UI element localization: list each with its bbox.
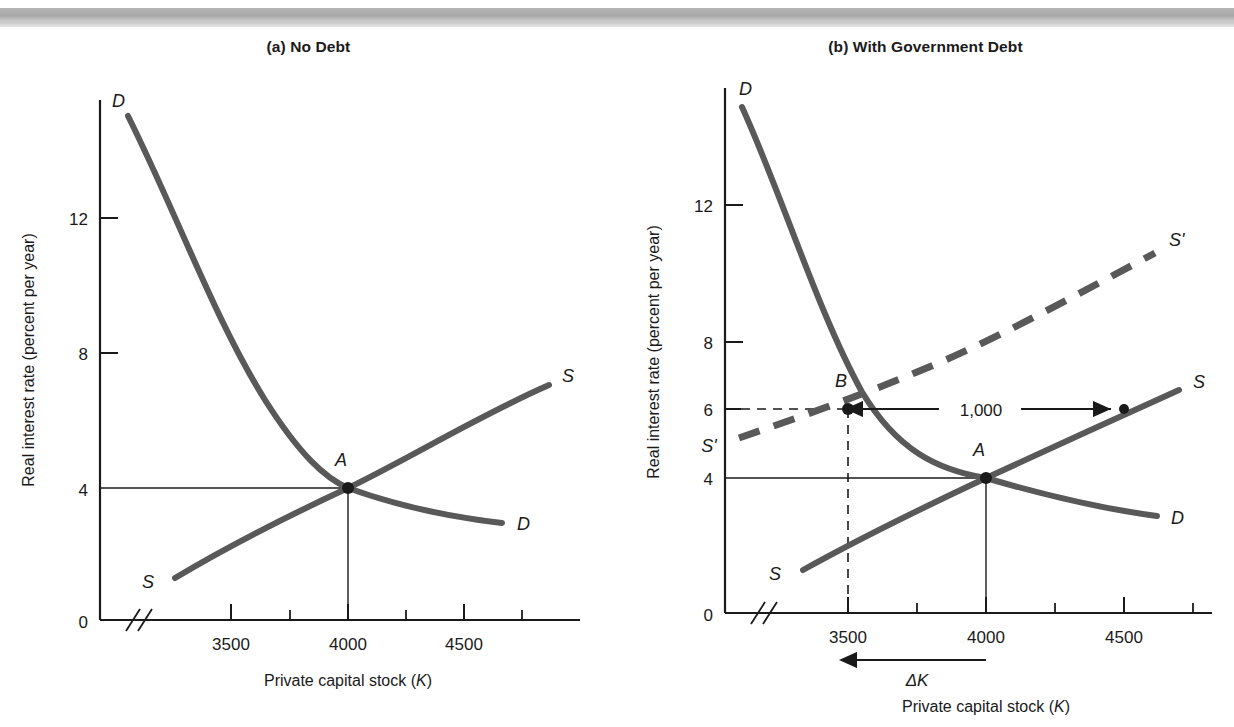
shifted-supply-label-end: S'	[1169, 230, 1185, 250]
x-ticks	[231, 604, 522, 620]
crowding-out-label: 1,000	[960, 401, 1003, 420]
shifted-supply-label-start: S'	[701, 436, 717, 456]
y-axis-title: Real interest rate (percent per year)	[20, 233, 37, 486]
y-tick-label-4: 4	[79, 481, 88, 500]
demand-curve-label-end: D	[517, 514, 530, 534]
supply-curve-label-end: S	[1193, 372, 1205, 392]
panel-a-chart: 12 8 4 0 3500 4000 4500 A D D S S	[0, 0, 617, 727]
y-tick-label-8: 8	[704, 334, 713, 353]
y-tick-label-0: 0	[704, 606, 713, 625]
point-b-label: B	[835, 371, 847, 391]
point-b-marker	[842, 403, 854, 415]
point-a-marker	[342, 482, 354, 494]
x-axis-title: Private capital stock (K)	[264, 672, 432, 689]
demand-curve	[128, 116, 502, 523]
x-axis-title-close: )	[1065, 698, 1070, 715]
x-axis-title-plain: Private capital stock (	[902, 698, 1055, 715]
y-tick-label-4: 4	[704, 470, 713, 489]
supply-curve	[175, 385, 549, 578]
x-ticks	[848, 597, 1193, 613]
panel-b-chart: 12 8 6 4 0 3500 4000 4500 A	[617, 0, 1234, 727]
delta-k-label: ΔK	[905, 671, 929, 690]
x-tick-label-4000: 4000	[967, 628, 1005, 647]
demand-curve-label-end: D	[1171, 508, 1184, 528]
x-tick-label-3500: 3500	[212, 635, 250, 654]
y-tick-label-6: 6	[704, 401, 713, 420]
x-tick-label-4500: 4500	[445, 635, 483, 654]
point-supply-at-r6-marker	[1119, 404, 1129, 414]
x-axis-title-plain: Private capital stock (	[264, 672, 417, 689]
y-tick-label-12: 12	[694, 197, 713, 216]
x-tick-label-3500: 3500	[829, 628, 867, 647]
x-tick-label-4500: 4500	[1105, 628, 1143, 647]
point-a-marker	[980, 472, 992, 484]
y-tick-label-12: 12	[69, 210, 88, 229]
supply-curve-label-end: S	[562, 366, 574, 386]
demand-curve-label-start: D	[112, 91, 125, 111]
panel-no-debt: (a) No Debt 12 8 4 0 3500 4000 4500	[0, 0, 617, 727]
y-ticks	[725, 205, 743, 409]
x-tick-label-4000: 4000	[329, 635, 367, 654]
point-a-label: A	[972, 440, 985, 460]
panel-with-government-debt: (b) With Government Debt 12 8 6 4 0	[617, 0, 1234, 727]
y-tick-label-8: 8	[79, 345, 88, 364]
y-tick-label-0: 0	[79, 613, 88, 632]
demand-curve-label-start: D	[739, 79, 752, 99]
x-axis-title: Private capital stock (K)	[902, 698, 1070, 715]
y-axis-title: Real interest rate (percent per year)	[645, 225, 662, 478]
supply-curve-label-start: S	[142, 572, 154, 592]
shifted-supply-curve	[739, 253, 1155, 438]
supply-curve-label-start: S	[769, 564, 781, 584]
point-a-label: A	[334, 450, 347, 470]
x-axis-title-close: )	[427, 672, 432, 689]
demand-curve	[742, 107, 1157, 516]
y-ticks	[100, 218, 118, 353]
